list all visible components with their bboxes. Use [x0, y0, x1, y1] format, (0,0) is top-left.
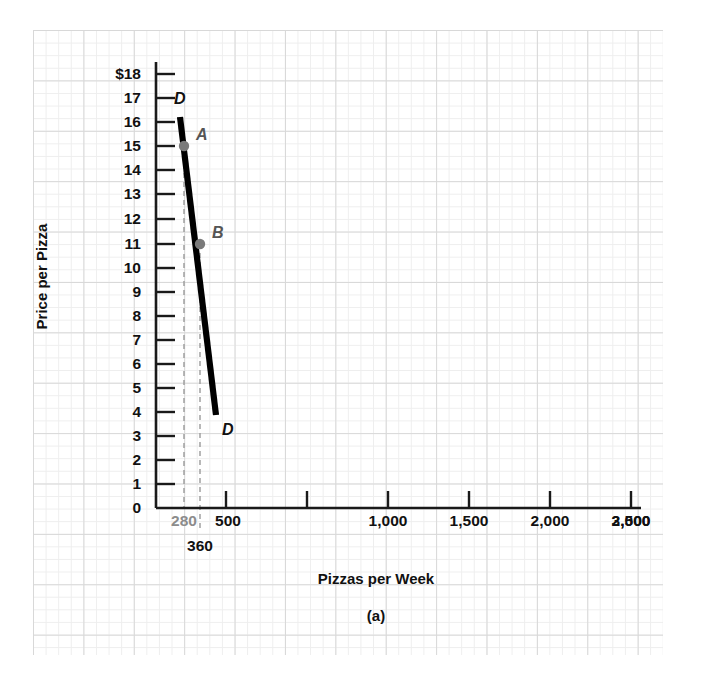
x-tick-label-500: 500 — [196, 512, 260, 530]
y-tick-label-15: 15 — [95, 137, 141, 155]
y-tick-label-9: 9 — [95, 283, 141, 301]
point-label-b: B — [212, 224, 224, 242]
panel-caption: (a) — [251, 607, 501, 624]
x-axis-title: Pizzas per Week — [251, 570, 501, 587]
x-axis-ticks — [226, 491, 631, 508]
data-point-a — [179, 141, 189, 151]
y-tick-label-6: 6 — [95, 355, 141, 373]
y-tick-label-1: 1 — [95, 475, 141, 493]
y-tick-label-11: 11 — [95, 235, 141, 253]
y-tick-label-13: 13 — [95, 185, 141, 203]
y-tick-label-4: 4 — [95, 403, 141, 421]
y-tick-label-3: 3 — [95, 427, 141, 445]
y-tick-label-8: 8 — [95, 307, 141, 325]
y-tick-label-14: 14 — [95, 161, 141, 179]
y-tick-label-2: 2 — [95, 451, 141, 469]
figure-panel-a: $18 17 16 15 14 13 12 11 10 9 8 7 6 5 4 … — [0, 0, 702, 694]
data-point-b — [195, 239, 205, 249]
y-tick-label-18: $18 — [95, 65, 141, 83]
y-tick-label-12: 12 — [95, 210, 141, 228]
y-tick-label-10: 10 — [95, 259, 141, 277]
y-tick-label-5: 5 — [95, 379, 141, 397]
point-label-a: A — [196, 126, 208, 144]
y-axis-ticks — [156, 74, 175, 484]
curve-label-d-bottom: D — [222, 421, 234, 439]
x-tick-label-3000: 3,000 — [581, 512, 681, 530]
y-tick-label-0: 0 — [95, 499, 141, 517]
x-tick-label-360: 360 — [168, 537, 232, 555]
y-axis-title: Price per Pizza — [33, 217, 50, 337]
demand-curve-d — [180, 117, 216, 415]
y-tick-label-17: 17 — [95, 89, 141, 107]
curve-label-d-top: D — [174, 90, 186, 108]
y-tick-label-16: 16 — [95, 113, 141, 131]
y-tick-label-7: 7 — [95, 331, 141, 349]
